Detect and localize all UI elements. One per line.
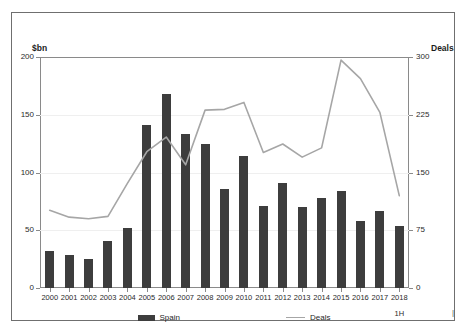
right-axis-tick-label: 225 <box>416 110 446 119</box>
left-axis-tick <box>36 288 40 289</box>
x-axis-tick <box>263 288 264 292</box>
right-axis-tick <box>409 173 413 174</box>
x-axis-tick <box>225 288 226 292</box>
x-axis-tick <box>283 288 284 292</box>
x-axis-tick <box>69 288 70 292</box>
x-axis-tick <box>166 288 167 292</box>
left-axis-title: $bn <box>32 43 47 53</box>
legend-label-spain: Spain <box>160 313 180 322</box>
legend-item-deals: Deals <box>286 313 330 322</box>
right-axis-tick-label: 0 <box>416 283 446 292</box>
right-axis-tick <box>409 115 413 116</box>
plot-area: 050100150200 075150225300 20002001200220… <box>40 57 409 288</box>
chart-legend: Spain Deals <box>0 313 468 322</box>
x-axis-tick <box>89 288 90 292</box>
x-axis-tick <box>322 288 323 292</box>
left-axis-tick-label: 150 <box>4 110 34 119</box>
left-axis-tick-label: 200 <box>4 52 34 61</box>
right-axis-tick-label: 75 <box>416 225 446 234</box>
x-axis-tick <box>360 288 361 292</box>
left-axis-tick-label: 100 <box>4 168 34 177</box>
right-axis-tick <box>409 288 413 289</box>
x-axis-tick <box>380 288 381 292</box>
left-axis-tick-label: 50 <box>4 225 34 234</box>
x-axis-tick <box>127 288 128 292</box>
x-axis-tick <box>302 288 303 292</box>
x-axis-tick <box>341 288 342 292</box>
legend-item-spain: Spain <box>138 313 180 322</box>
line-series-deals <box>40 57 409 288</box>
right-axis-tick <box>409 57 413 58</box>
x-axis-tick <box>147 288 148 292</box>
right-axis-tick-label: 300 <box>416 52 446 61</box>
x-axis-tick <box>108 288 109 292</box>
legend-label-deals: Deals <box>310 313 330 322</box>
legend-bar-swatch-icon <box>138 315 155 321</box>
left-axis-tick-label: 0 <box>4 283 34 292</box>
x-axis-tick <box>50 288 51 292</box>
x-axis-tick <box>205 288 206 292</box>
x-axis-tick <box>186 288 187 292</box>
legend-line-swatch-icon <box>286 317 305 318</box>
x-axis-tick <box>244 288 245 292</box>
x-axis-tick <box>399 288 400 292</box>
right-axis-tick <box>409 230 413 231</box>
chart-page: $bn Deals 050100150200 075150225300 2000… <box>0 0 468 334</box>
corner-mark: | <box>452 308 454 317</box>
right-axis-tick-label: 150 <box>416 168 446 177</box>
